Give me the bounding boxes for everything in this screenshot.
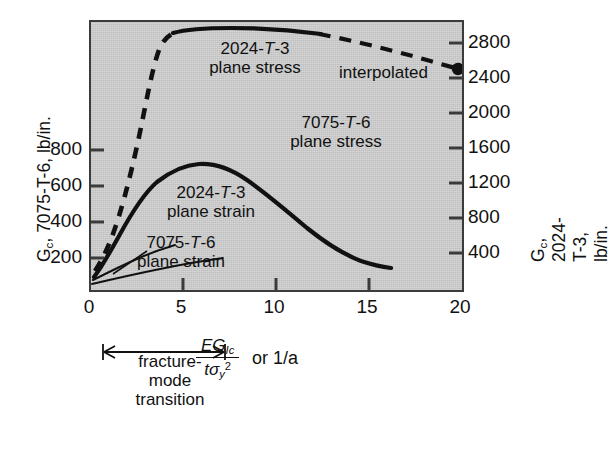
right-tick-label-800: 800 xyxy=(468,206,528,228)
right-tick-label-1600: 1600 xyxy=(468,136,528,158)
left-tick-label-200: 200 xyxy=(26,246,82,268)
curve-2024-t3-plane-stress-plateau xyxy=(173,28,321,34)
right-tick-label-400: 400 xyxy=(468,241,528,263)
anno3-line2: plane strain xyxy=(151,203,271,222)
left-tick-label-600: 600 xyxy=(26,174,82,196)
formula-denominator: tσy2 xyxy=(196,358,239,380)
left-tick-label-400: 400 xyxy=(26,210,82,232)
anno4-ital: T xyxy=(190,233,200,252)
anno3-ital: T xyxy=(220,183,230,202)
anno2-line2: plane stress xyxy=(276,133,396,152)
formula-exponent: 2 xyxy=(225,360,231,372)
anno4-suffix: -6 xyxy=(200,233,215,252)
x-axis-formula: EGIc tσy2 or 1/a xyxy=(196,336,298,380)
x-tick-label-15: 15 xyxy=(347,296,387,318)
right-axis-title-g: G xyxy=(528,248,548,262)
anno1-prefix: 2024- xyxy=(221,39,264,58)
anno2-ital: T xyxy=(345,113,355,132)
caption-line-3: transition xyxy=(95,390,245,409)
annotation-interpolated: interpolated xyxy=(339,64,428,83)
annotation-2024-t3-plane-stress: 2024-T-3 plane stress xyxy=(195,40,315,77)
formula-or-text: or 1/a xyxy=(244,348,298,369)
x-tick-label-0: 0 xyxy=(69,296,109,318)
right-tick-label-2400: 2400 xyxy=(468,66,528,88)
right-tick-label-2000: 2000 xyxy=(468,101,528,123)
anno1-suffix: -3 xyxy=(274,39,289,58)
annotation-7075-t6-plane-stress: 7075-T-6 plane stress xyxy=(276,114,396,151)
right-tick-label-2800: 2800 xyxy=(468,31,528,53)
left-axis-ticks xyxy=(91,150,104,258)
anno2-suffix: -6 xyxy=(355,113,370,132)
interpolated-label: interpolated xyxy=(339,63,428,82)
formula-sigma: σ xyxy=(209,360,219,379)
plot-area: 2024-T-3 plane stress interpolated 7075-… xyxy=(89,20,464,292)
formula-ic-sub: Ic xyxy=(226,344,235,356)
right-tick-label-1200: 1200 xyxy=(468,171,528,193)
x-axis-ticks xyxy=(183,278,369,290)
x-tick-label-5: 5 xyxy=(161,296,201,318)
left-tick-label-800: 800 xyxy=(26,138,82,160)
x-tick-label-20: 20 xyxy=(440,296,480,318)
anno4-line2: plane strain xyxy=(121,253,241,272)
right-axis-title-sub: c xyxy=(537,243,549,249)
anno2-prefix: 7075- xyxy=(302,113,345,132)
annotation-2024-t3-plane-strain: 2024-T-3 plane strain xyxy=(151,184,271,221)
right-axis-title: Gc, 2024-T-3, lb/in. xyxy=(528,217,612,262)
anno3-suffix: -3 xyxy=(230,183,245,202)
x-tick-label-10: 10 xyxy=(254,296,294,318)
anno3-prefix: 2024- xyxy=(177,183,220,202)
anno4-prefix: 7075- xyxy=(147,233,190,252)
annotation-7075-t6-plane-strain: 7075-T-6 plane strain xyxy=(121,234,241,271)
anno1-ital: T xyxy=(264,39,274,58)
formula-eg: EG xyxy=(201,336,226,355)
formula-numerator: EGIc xyxy=(196,336,239,358)
formula-fraction: EGIc tσy2 xyxy=(196,336,239,380)
anno1-line2: plane stress xyxy=(195,59,315,78)
interpolated-endpoint-marker xyxy=(452,63,462,75)
